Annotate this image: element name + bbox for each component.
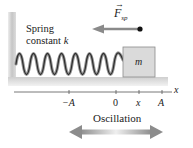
spring-constant-var: k	[64, 35, 69, 46]
spring-label-line2: constant k	[26, 35, 68, 47]
x-axis	[14, 90, 172, 94]
force-arrow	[92, 25, 143, 34]
axis-variable-label: x	[174, 84, 178, 95]
tick-label-zero: 0	[113, 97, 118, 108]
spring-constant-word: constant	[26, 35, 61, 46]
spring	[16, 53, 123, 75]
oscillation-label: Oscillation	[93, 112, 141, 124]
mass-label: m	[135, 56, 142, 67]
force-subscript: sp	[121, 14, 127, 22]
vector-arrow-icon: →	[115, 0, 124, 9]
floor	[8, 77, 168, 86]
spring-label-line1: Spring	[26, 23, 68, 35]
oscillation-arrow	[69, 125, 163, 139]
tick-label-a: A	[158, 97, 164, 108]
force-label: → Fsp	[114, 6, 128, 22]
wall	[8, 12, 16, 86]
spring-label: Spring constant k	[26, 23, 68, 47]
tick-label-neg-a: −A	[62, 97, 75, 108]
tick-label-x: x	[136, 97, 140, 108]
